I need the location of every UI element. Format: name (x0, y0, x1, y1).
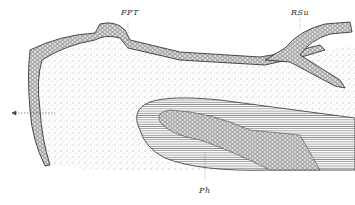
label-fpt: FPT (121, 8, 139, 17)
label-ph: Ph (199, 186, 211, 195)
histology-illustration (0, 0, 355, 205)
label-rsu: RSu (291, 8, 309, 17)
